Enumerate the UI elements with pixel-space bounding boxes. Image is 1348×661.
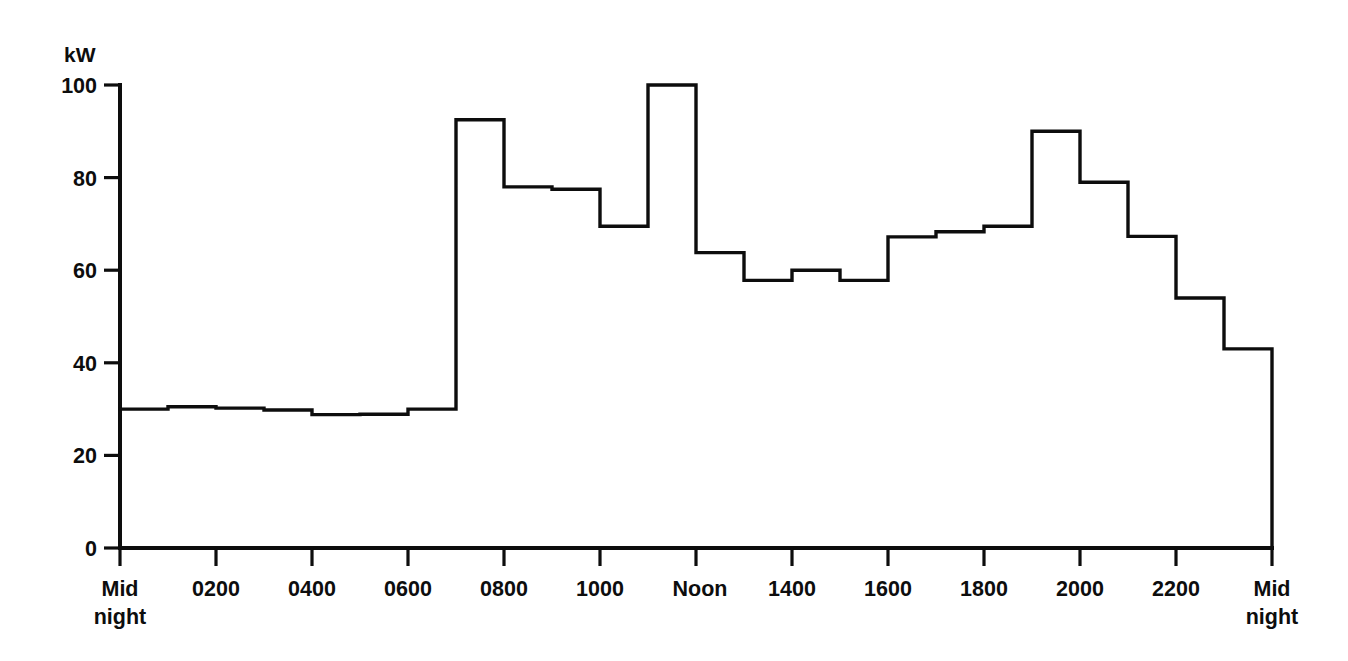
x-tick-label-0200: 0200 xyxy=(192,577,240,601)
y-axis-ticks xyxy=(104,85,120,548)
x-tick-label-1400: 1400 xyxy=(768,577,816,601)
daily-load-profile-chart: kW 100 80 60 40 20 0 xyxy=(0,0,1348,661)
x-tick-label-0400: 0400 xyxy=(288,577,336,601)
y-tick-label-60: 60 xyxy=(73,259,97,283)
y-axis-tick-labels: 100 80 60 40 20 0 xyxy=(61,74,97,561)
load-profile-step-series xyxy=(120,85,1272,548)
x-tick-label-midnight-start-line1: Mid xyxy=(101,577,138,601)
x-tick-label-0800: 0800 xyxy=(480,577,528,601)
chart-canvas: kW 100 80 60 40 20 0 xyxy=(0,0,1348,661)
y-axis-unit-label: kW xyxy=(64,43,96,66)
x-tick-label-1600: 1600 xyxy=(864,577,912,601)
x-tick-label-midnight-end-line2: night xyxy=(1246,605,1299,629)
x-tick-label-1000: 1000 xyxy=(576,577,624,601)
y-tick-label-0: 0 xyxy=(85,537,97,561)
x-tick-label-midnight-start-line2: night xyxy=(94,605,147,629)
y-tick-label-20: 20 xyxy=(73,444,97,468)
y-tick-label-40: 40 xyxy=(73,352,97,376)
x-tick-label-2200: 2200 xyxy=(1152,577,1200,601)
x-axis-ticks xyxy=(120,548,1272,566)
y-tick-label-80: 80 xyxy=(73,167,97,191)
x-tick-label-midnight-end-line1: Mid xyxy=(1253,577,1290,601)
x-tick-label-2000: 2000 xyxy=(1056,577,1104,601)
x-tick-label-noon: Noon xyxy=(673,577,728,601)
x-tick-label-1800: 1800 xyxy=(960,577,1008,601)
x-axis-tick-labels: Mid night 0200 0400 0600 0800 1000 Noon … xyxy=(94,577,1299,629)
x-tick-label-0600: 0600 xyxy=(384,577,432,601)
y-tick-label-100: 100 xyxy=(61,74,97,98)
